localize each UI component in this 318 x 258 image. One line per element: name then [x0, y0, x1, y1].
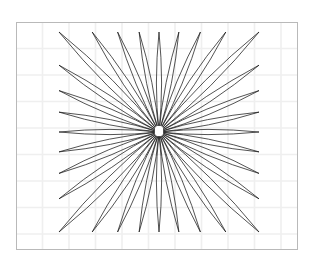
- rosette-figure: Radial petal rosette diagram: [0, 0, 318, 258]
- center-hole: [155, 126, 164, 137]
- figure-canvas: Radial petal rosette diagram: [0, 0, 318, 258]
